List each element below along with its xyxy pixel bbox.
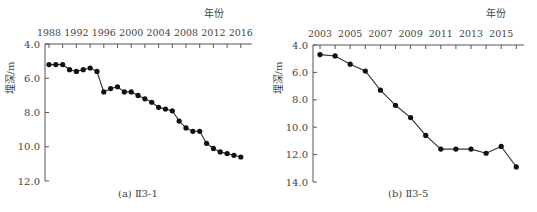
y-tick-label: 10.0 — [286, 122, 308, 133]
data-point — [218, 149, 223, 154]
chart-a-plot: 4.06.08.010.012.019881992199620002004200… — [0, 0, 270, 212]
data-point — [177, 118, 182, 123]
data-line — [49, 65, 241, 157]
chart-a-caption: (a) Ⅱ3-1 — [118, 188, 158, 199]
data-point — [101, 89, 106, 94]
data-point — [108, 86, 113, 91]
data-point — [149, 100, 154, 105]
data-point — [468, 147, 473, 152]
x-tick-label: 2011 — [429, 28, 453, 39]
y-axis-title: 埋深/m — [5, 61, 16, 94]
data-point — [238, 154, 243, 159]
data-point — [46, 62, 51, 67]
x-tick-label: 2003 — [308, 28, 332, 39]
data-point — [94, 69, 99, 74]
data-point — [170, 108, 175, 113]
data-point — [135, 93, 140, 98]
data-point — [81, 67, 86, 72]
chart-b-caption: (b) Ⅱ3-5 — [388, 188, 428, 199]
y-tick-label: 6.0 — [24, 73, 40, 84]
x-tick-label: 2007 — [368, 28, 392, 39]
data-point — [197, 129, 202, 134]
x-tick-label: 2008 — [174, 27, 198, 38]
data-point — [211, 146, 216, 151]
x-tick-label: 2012 — [201, 27, 225, 38]
data-point — [67, 67, 72, 72]
data-point — [53, 62, 58, 67]
data-point — [378, 88, 383, 93]
x-tick-label: 2000 — [119, 27, 143, 38]
data-point — [514, 164, 519, 169]
data-point — [74, 69, 79, 74]
y-tick-label: 10.0 — [18, 141, 40, 152]
y-tick-label: 8.0 — [292, 94, 308, 105]
chart-a: 4.06.08.010.012.019881992199620002004200… — [0, 0, 270, 212]
chart-b-plot: 4.06.08.010.012.014.02003200520072009201… — [270, 0, 537, 212]
x-tick-label: 2009 — [399, 28, 423, 39]
y-tick-label: 12.0 — [286, 149, 308, 160]
y-tick-label: 14.0 — [286, 177, 308, 188]
data-point — [438, 147, 443, 152]
data-point — [163, 106, 168, 111]
x-axis-title: 年份 — [204, 7, 224, 19]
data-point — [423, 133, 428, 138]
y-tick-label: 4.0 — [292, 40, 308, 51]
x-tick-label: 2015 — [489, 28, 513, 39]
data-point — [115, 84, 120, 89]
data-point — [453, 147, 458, 152]
data-line — [320, 55, 516, 167]
data-point — [348, 62, 353, 67]
x-tick-label: 1996 — [92, 27, 116, 38]
data-point — [225, 151, 230, 156]
y-tick-label: 8.0 — [24, 107, 40, 118]
x-tick-label: 2005 — [338, 28, 362, 39]
chart-b: 4.06.08.010.012.014.02003200520072009201… — [270, 0, 537, 212]
data-point — [333, 53, 338, 58]
data-point — [363, 68, 368, 73]
y-tick-label: 4.0 — [24, 39, 40, 50]
y-axis-title: 埋深/m — [273, 61, 284, 94]
data-point — [142, 96, 147, 101]
x-tick-label: 1988 — [37, 27, 61, 38]
data-point — [88, 65, 93, 70]
data-point — [190, 129, 195, 134]
data-point — [122, 89, 127, 94]
x-tick-label: 2004 — [147, 27, 171, 38]
data-point — [231, 153, 236, 158]
data-point — [393, 103, 398, 108]
data-point — [204, 141, 209, 146]
data-point — [499, 144, 504, 149]
data-point — [60, 62, 65, 67]
x-tick-label: 1992 — [64, 27, 88, 38]
data-point — [408, 115, 413, 120]
data-point — [183, 125, 188, 130]
y-tick-label: 6.0 — [292, 67, 308, 78]
data-point — [129, 89, 134, 94]
x-axis-title: 年份 — [486, 7, 506, 19]
data-point — [317, 52, 322, 57]
y-tick-label: 12.0 — [18, 176, 40, 187]
x-tick-label: 2016 — [229, 27, 253, 38]
x-tick-label: 2013 — [459, 28, 483, 39]
data-point — [156, 105, 161, 110]
data-point — [484, 151, 489, 156]
